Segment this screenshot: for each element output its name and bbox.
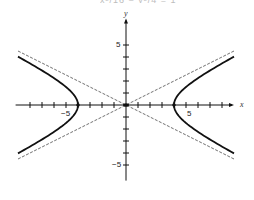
axes (16, 19, 234, 181)
vertex-dot (172, 103, 176, 107)
x-axis-label: x (240, 101, 244, 109)
x-tick-label: −5 (61, 110, 70, 118)
origin-dot (123, 103, 129, 107)
x-axis-arrow-icon (229, 103, 234, 107)
x-tick-label: 5 (187, 110, 191, 118)
y-tick-label: 5 (116, 41, 120, 49)
hyperbola-plot (0, 0, 254, 200)
y-axis-label: y (124, 10, 128, 18)
y-tick-label: −5 (112, 161, 121, 169)
vertex-dot (76, 103, 80, 107)
y-axis-arrow-icon (124, 19, 128, 24)
